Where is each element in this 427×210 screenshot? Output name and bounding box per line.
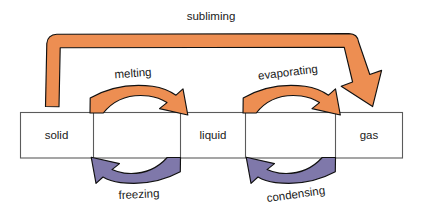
- arrow-condensing: [246, 157, 335, 183]
- state-label-gas: gas: [360, 129, 379, 141]
- arrow-freezing: [91, 157, 180, 183]
- arrow-evaporating: [243, 85, 340, 115]
- process-label-evaporating: evaporating: [257, 62, 318, 81]
- phase-change-diagram: solid liquid gas subliming melting evapo…: [0, 0, 427, 210]
- melting-arrow-shape: [90, 85, 188, 115]
- process-label-condensing: condensing: [266, 184, 326, 204]
- process-label-subliming: subliming: [187, 10, 236, 22]
- freezing-arrow-shape: [91, 157, 180, 183]
- state-label-liquid: liquid: [200, 129, 227, 141]
- diagram-canvas: solid liquid gas subliming melting evapo…: [0, 0, 427, 210]
- condensing-arrow-shape: [246, 157, 335, 183]
- state-label-solid: solid: [45, 129, 69, 141]
- evaporating-arrow-shape: [243, 85, 340, 115]
- process-label-freezing: freezing: [118, 187, 159, 201]
- process-label-melting: melting: [114, 66, 152, 81]
- arrow-melting: [90, 85, 188, 115]
